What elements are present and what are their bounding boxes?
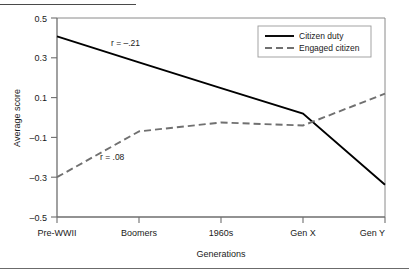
series-line-engaged-citizen [57, 94, 385, 178]
x-axis-tick-labels: Pre-WWII Boomers 1960s Gen X Gen Y [38, 228, 386, 238]
legend-label-engaged-citizen: Engaged citizen [299, 43, 360, 53]
y-tick-label: –0.3 [29, 173, 47, 183]
x-tick-label-gen-y: Gen Y [360, 228, 385, 238]
annotation-r-engaged-citizen: r = .08 [100, 152, 125, 162]
x-tick-label-boomers: Boomers [121, 228, 158, 238]
y-tick-label: –0.5 [29, 213, 47, 223]
y-axis-tick-labels: 0.5 0.3 0.1 –0.1 –0.3 –0.5 [29, 14, 47, 223]
series-line-citizen-duty [57, 36, 385, 184]
figure-container: 0.5 0.3 0.1 –0.1 –0.3 –0.5 Average score… [0, 0, 409, 276]
y-tick-label: 0.3 [34, 53, 47, 63]
y-tick-label: 0.1 [34, 93, 47, 103]
x-axis-title: Generations [196, 249, 246, 259]
chart-legend: Citizen duty Engaged citizen [258, 26, 371, 57]
line-chart: 0.5 0.3 0.1 –0.1 –0.3 –0.5 Average score… [0, 0, 409, 276]
y-axis-ticks [51, 18, 57, 217]
x-tick-label-pre-wwii: Pre-WWII [38, 228, 77, 238]
x-axis-ticks [57, 217, 385, 223]
x-tick-label-gen-x: Gen X [290, 228, 316, 238]
x-tick-label-1960s: 1960s [209, 228, 234, 238]
y-axis-title: Average score [12, 89, 22, 147]
annotation-r-citizen-duty: r = –.21 [111, 38, 140, 48]
y-tick-label: 0.5 [34, 14, 47, 24]
legend-label-citizen-duty: Citizen duty [299, 31, 344, 41]
y-tick-label: –0.1 [29, 133, 47, 143]
